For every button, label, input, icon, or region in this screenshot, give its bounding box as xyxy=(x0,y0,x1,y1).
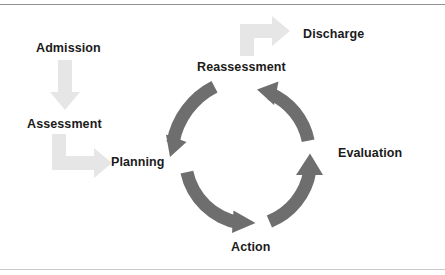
entry-arrows-layer xyxy=(0,0,445,275)
arrow-reassessment-to-discharge xyxy=(240,16,290,56)
diagram-canvas: Admission Assessment Planning Reassessme… xyxy=(0,0,445,275)
arrow-assessment-to-planning xyxy=(52,134,112,178)
arrow-admission-to-assessment xyxy=(50,60,80,110)
